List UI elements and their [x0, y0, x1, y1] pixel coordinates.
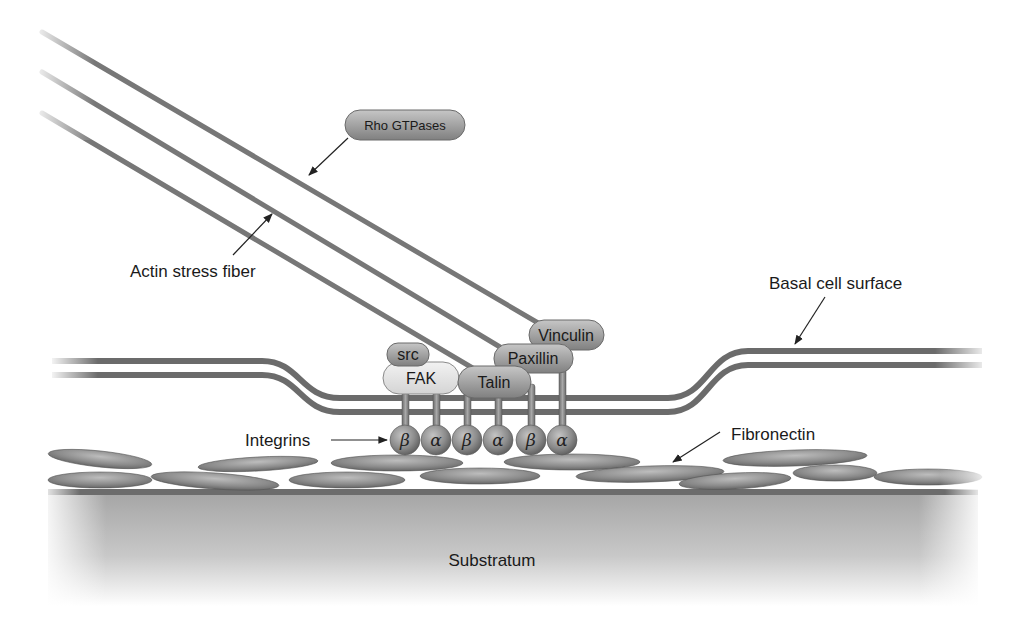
rho-gtpases-protein: Rho GTPases: [345, 110, 465, 140]
src-label: src: [397, 346, 418, 363]
vinculin-label: Vinculin: [538, 327, 594, 344]
fibronectin-fibril: [289, 472, 405, 488]
basal-cell-surface-label: Basal cell surface: [769, 274, 902, 293]
svg-text:β: β: [461, 430, 472, 450]
integrin-beta-1: β: [390, 425, 420, 455]
fibronectin-layer: [47, 446, 982, 494]
integrin-beta-3: β: [516, 425, 546, 455]
svg-text:β: β: [525, 430, 536, 450]
fibronectin-arrow: [673, 432, 720, 462]
integrins: β α β α β α: [390, 425, 577, 455]
paxillin-label: Paxillin: [508, 350, 559, 367]
talin-label: Talin: [478, 374, 511, 391]
src-protein: src: [387, 343, 429, 366]
svg-text:α: α: [492, 430, 504, 450]
svg-text:α: α: [430, 430, 442, 450]
fibronectin-fibril: [47, 446, 152, 473]
basal-arrow: [795, 297, 825, 344]
fibronectin-fibril: [331, 455, 463, 471]
svg-text:α: α: [556, 430, 568, 450]
substratum: [40, 489, 985, 606]
actin-stress-fibers: [42, 32, 545, 370]
integrin-alpha-2: α: [483, 425, 513, 455]
fibronectin-fibril: [48, 472, 152, 488]
focal-adhesion-diagram: FAK src Vinculin Paxillin Talin β α β α: [0, 0, 1017, 623]
actin-filament: [42, 113, 476, 370]
actin-filament: [42, 32, 545, 327]
svg-text:β: β: [399, 430, 410, 450]
integrins-label: Integrins: [245, 431, 310, 450]
integrin-beta-2: β: [452, 425, 482, 455]
rho-gtpases-label: Rho GTPases: [364, 118, 446, 133]
fibronectin-fibril: [198, 454, 319, 474]
fak-protein: FAK: [383, 362, 459, 394]
fibronectin-fibril: [420, 468, 540, 484]
integrin-alpha-1: α: [421, 425, 451, 455]
actin-arrow: [233, 214, 272, 255]
rho-arrow: [309, 138, 348, 175]
actin-stress-fiber-label: Actin stress fiber: [130, 262, 256, 281]
substratum-label: Substratum: [449, 551, 536, 570]
fibronectin-fibril: [793, 465, 877, 481]
integrin-alpha-3: α: [547, 425, 577, 455]
fak-label: FAK: [406, 370, 437, 387]
fibronectin-label: Fibronectin: [731, 425, 815, 444]
talin-protein: Talin: [458, 366, 531, 398]
